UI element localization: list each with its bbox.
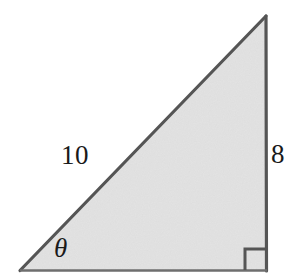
opposite-side-length-label: 8 xyxy=(271,141,285,168)
theta-angle-label: θ xyxy=(54,235,67,262)
figure-canvas: 10 8 θ xyxy=(0,0,296,278)
triangle-edge-opposite xyxy=(266,16,267,271)
hypotenuse-length-label: 10 xyxy=(61,142,89,169)
triangle-graphic xyxy=(0,0,296,278)
